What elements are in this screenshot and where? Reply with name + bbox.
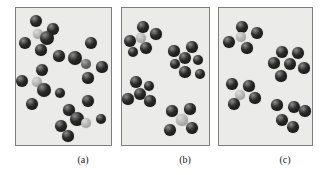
particle-sphere (186, 122, 198, 134)
particle-sphere (284, 58, 297, 71)
particle-sphere (193, 55, 204, 66)
particle-sphere (164, 124, 176, 136)
particle-sphere (236, 21, 248, 33)
particle-sphere (268, 57, 279, 68)
particle-sphere (179, 66, 190, 77)
particle-sphere (62, 130, 73, 141)
particle-sphere (40, 31, 54, 45)
particle-sphere (292, 47, 304, 59)
particle-sphere (186, 41, 198, 53)
particle-sphere (35, 44, 46, 55)
particle-sphere (81, 59, 92, 70)
particle-sphere (137, 21, 149, 33)
particle-sphere (236, 32, 247, 43)
particle-dispersion-figure: (a) (b) (c) (0, 0, 328, 175)
particle-sphere (144, 95, 155, 106)
particle-sphere (184, 103, 195, 114)
panel-c (218, 7, 313, 146)
particle-sphere (195, 69, 206, 80)
particle-sphere (298, 62, 309, 73)
particle-sphere (150, 28, 161, 39)
particle-sphere (288, 101, 300, 113)
particle-sphere (36, 64, 49, 77)
particle-sphere (228, 98, 240, 110)
panel-a (15, 7, 112, 146)
particle-sphere (82, 95, 94, 107)
particle-sphere (241, 42, 252, 53)
particle-sphere (53, 50, 64, 61)
particle-sphere (128, 47, 139, 58)
particle-sphere (299, 105, 310, 116)
particle-sphere (19, 37, 31, 49)
particle-sphere (249, 92, 260, 103)
particle-sphere (223, 36, 235, 48)
particle-sphere (275, 70, 286, 81)
particle-sphere (81, 118, 91, 128)
caption-a: (a) (63, 154, 103, 166)
particle-sphere (124, 35, 136, 47)
particle-sphere (271, 99, 282, 110)
particle-sphere (276, 46, 288, 58)
particle-sphere (276, 114, 288, 126)
particle-sphere (68, 51, 82, 65)
particle-sphere (96, 61, 107, 72)
particle-sphere (16, 75, 28, 87)
caption-c: (c) (265, 154, 305, 166)
particle-sphere (85, 37, 97, 49)
particle-sphere (144, 81, 155, 92)
caption-b: (b) (165, 154, 205, 166)
panel-b (121, 7, 210, 146)
panel-a-spheres (16, 8, 111, 145)
particle-sphere (122, 93, 133, 104)
particle-sphere (140, 42, 152, 54)
panel-c-spheres (219, 8, 312, 145)
particle-sphere (168, 45, 179, 56)
particle-sphere (96, 114, 107, 125)
particle-sphere (30, 15, 42, 27)
particle-sphere (37, 83, 51, 97)
particle-sphere (226, 78, 238, 90)
particle-sphere (26, 98, 38, 110)
particle-sphere (170, 59, 181, 70)
particle-sphere (130, 76, 142, 88)
particle-sphere (287, 121, 299, 133)
particle-sphere (55, 88, 66, 99)
particle-sphere (243, 80, 254, 91)
particle-sphere (166, 105, 177, 116)
panel-b-spheres (122, 8, 209, 145)
particle-sphere (179, 52, 191, 64)
particle-sphere (82, 72, 93, 83)
particle-sphere (251, 27, 263, 39)
